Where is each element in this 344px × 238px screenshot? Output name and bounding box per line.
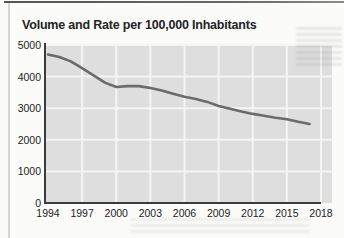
y-tick-label: 4000 — [5, 71, 41, 83]
y-tick-label: 5000 — [5, 39, 41, 51]
line-chart — [0, 0, 344, 238]
x-tick-label: 2018 — [304, 207, 338, 220]
x-tick-label: 2003 — [133, 207, 167, 220]
y-tick-label: 1000 — [5, 165, 41, 177]
y-tick-label: 3000 — [5, 102, 41, 114]
plot-background — [46, 45, 332, 203]
x-tick-label: 1994 — [31, 207, 65, 220]
x-tick-label: 2015 — [270, 207, 304, 220]
x-tick-label: 2000 — [99, 207, 133, 220]
y-tick-label: 2000 — [5, 134, 41, 146]
x-tick-label: 2012 — [236, 207, 270, 220]
x-tick-label: 1997 — [65, 207, 99, 220]
x-tick-label: 2006 — [168, 207, 202, 220]
scanned-page: Volume and Rate per 100,000 Inhabitants … — [0, 0, 344, 238]
x-tick-label: 2009 — [202, 207, 236, 220]
